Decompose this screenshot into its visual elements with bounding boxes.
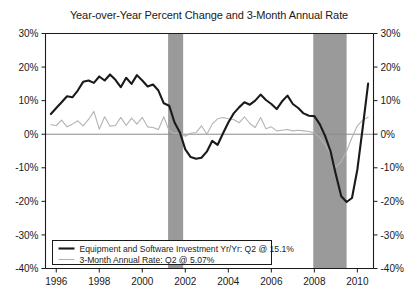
recession-band <box>168 34 183 269</box>
x-tick-label: 1996 <box>45 276 68 287</box>
y-tick-label-right: -30% <box>381 230 404 241</box>
y-tick-label-left: 20% <box>18 62 38 73</box>
x-tick-label: 2010 <box>346 276 369 287</box>
x-tick-label: 2006 <box>260 276 283 287</box>
chart-container: Year-over-Year Percent Change and 3-Mont… <box>0 0 418 300</box>
x-tick-label: 2004 <box>217 276 240 287</box>
y-tick-label-right: 10% <box>381 95 401 106</box>
chart-plot: 30%30%20%20%10%10%0%0%-10%-10%-20%-20%-3… <box>0 0 418 300</box>
y-tick-label-right: -20% <box>381 196 404 207</box>
y-tick-label-left: -10% <box>15 162 38 173</box>
y-tick-label-left: 0% <box>24 129 39 140</box>
y-tick-label-left: 10% <box>18 95 38 106</box>
legend-label: 3-Month Annual Rate: Q2 @ 5.07% <box>80 255 215 265</box>
y-tick-label-right: -10% <box>381 162 404 173</box>
y-tick-label-left: -30% <box>15 230 38 241</box>
y-tick-label-right: 20% <box>381 62 401 73</box>
y-tick-label-right: 30% <box>381 28 401 39</box>
y-tick-label-left: 30% <box>18 28 38 39</box>
legend-label: Equipment and Software Investment Yr/Yr:… <box>80 244 295 254</box>
x-tick-label: 2008 <box>303 276 326 287</box>
x-tick-label: 2002 <box>174 276 197 287</box>
y-tick-label-right: 0% <box>381 129 396 140</box>
x-tick-label: 1998 <box>88 276 111 287</box>
y-tick-label-left: -40% <box>15 263 38 274</box>
y-tick-label-left: -20% <box>15 196 38 207</box>
x-tick-label: 2000 <box>131 276 154 287</box>
y-tick-label-right: -40% <box>381 263 404 274</box>
